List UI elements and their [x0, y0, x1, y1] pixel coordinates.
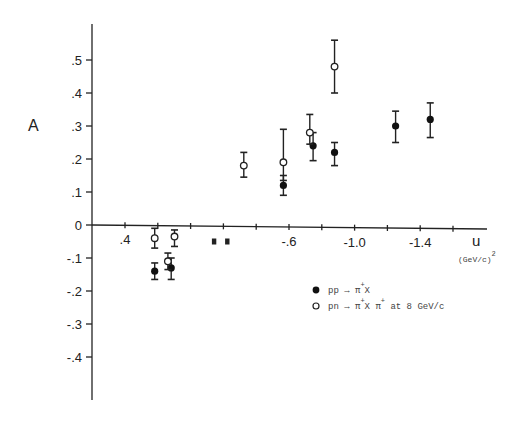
y-tick: .2 [71, 152, 92, 167]
x-tick: -1.4 [409, 225, 431, 250]
x-tick: -1.0 [343, 225, 365, 250]
y-tick: -.2 [67, 284, 92, 299]
data-point [225, 239, 229, 245]
y-tick: .3 [71, 119, 92, 134]
data-point [151, 228, 158, 248]
y-axis-label: A [28, 117, 39, 134]
legend-filled-marker [313, 287, 320, 294]
legend-item-pp: pp → π+X [328, 281, 371, 296]
y-ticks: .5.4.3.2.10-.1-.2-.3-.4 [67, 53, 92, 365]
x-axis-label: u [472, 232, 480, 249]
data-point [280, 129, 287, 180]
data-point [240, 152, 247, 177]
x-tick: .4 [120, 222, 131, 247]
y-tick: .1 [71, 185, 92, 200]
data-point [427, 103, 434, 138]
y-tick: .4 [71, 86, 92, 101]
axes [92, 24, 487, 400]
data-point [392, 111, 399, 142]
y-tick-label: .3 [71, 119, 82, 134]
legend-open-marker [313, 303, 319, 309]
y-tick-label: .4 [71, 86, 82, 101]
scatter-chart: .5.4.3.2.10-.1-.2-.3-.4 .4-.6-1.0-1.4 A … [0, 0, 523, 426]
y-tick-label: -.3 [67, 317, 82, 332]
data-point [212, 239, 216, 245]
y-tick-label: .1 [71, 185, 82, 200]
y-tick: -.3 [67, 317, 92, 332]
data-point [151, 263, 158, 280]
data-point [331, 40, 338, 93]
y-tick-label: 0 [75, 218, 82, 233]
x-tick-label: -.6 [281, 234, 296, 249]
x-axis-unit: (GeV/c)2 [458, 250, 496, 264]
data-point [171, 230, 178, 247]
y-tick: -.4 [67, 350, 92, 365]
x-tick-label: -1.0 [343, 235, 365, 250]
data-point [306, 114, 313, 144]
y-tick-label: -.1 [67, 251, 82, 266]
y-tick: .5 [71, 53, 92, 68]
y-tick-label: .2 [71, 152, 82, 167]
y-tick-label: -.4 [67, 350, 82, 365]
data-point [310, 133, 317, 161]
legend-item-pn: pn → π+X π+ at 8 GeV/c [328, 297, 444, 312]
x-tick: -.6 [281, 224, 296, 249]
data-point [331, 143, 338, 166]
y-tick: -.1 [67, 251, 92, 266]
y-tick-label: -.2 [67, 284, 82, 299]
y-tick: 0 [75, 218, 92, 233]
legend: pp → π+X pn → π+X π+ at 8 GeV/c [313, 281, 445, 312]
x-tick-label: .4 [120, 232, 131, 247]
y-tick-label: .5 [71, 53, 82, 68]
x-tick-label: -1.4 [409, 235, 431, 250]
